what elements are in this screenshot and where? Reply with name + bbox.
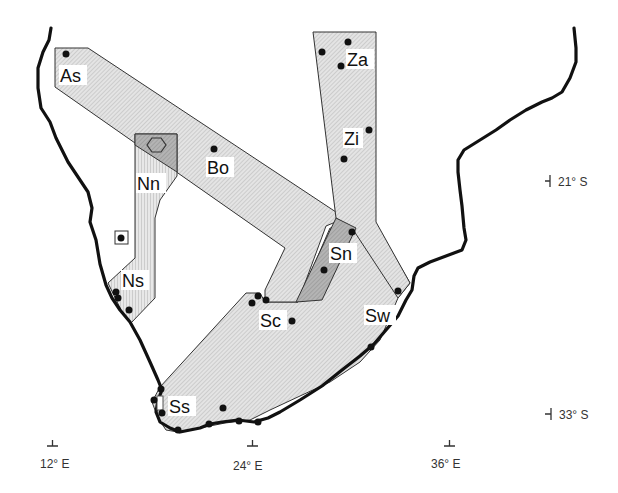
region-label-as: As xyxy=(60,66,81,86)
region-label-ns: Ns xyxy=(122,271,144,291)
site-marker xyxy=(175,427,182,434)
site-marker xyxy=(211,146,218,153)
longitude-tick xyxy=(47,440,58,446)
site-marker xyxy=(206,421,213,428)
latitude-label: 21° S xyxy=(558,175,587,189)
latitude-axis: 21° S 33° S xyxy=(545,175,588,422)
site-marker xyxy=(255,293,262,300)
longitude-label: 12° E xyxy=(40,457,69,471)
latitude-label: 33° S xyxy=(559,408,588,422)
site-marker xyxy=(349,229,356,236)
region-label-sw: Sw xyxy=(365,306,391,326)
region-label-sc: Sc xyxy=(260,311,281,331)
site-marker xyxy=(220,405,227,412)
site-marker xyxy=(236,418,243,425)
site-marker xyxy=(113,289,120,296)
site-marker xyxy=(115,295,122,302)
region-label-nn: Nn xyxy=(137,174,160,194)
map-canvas: As Bo Nn Ns Za Zi Sn Sc Sw Ss 12° E 24° … xyxy=(0,0,618,493)
site-marker xyxy=(366,127,373,134)
site-marker xyxy=(319,49,326,56)
site-marker xyxy=(321,267,328,274)
site-marker xyxy=(151,397,158,404)
region-label-ss: Ss xyxy=(169,397,190,417)
site-marker xyxy=(341,156,348,163)
longitude-tick xyxy=(444,440,455,446)
regions xyxy=(55,32,410,432)
longitude-label: 24° E xyxy=(233,459,262,473)
site-marker xyxy=(345,39,352,46)
longitude-tick xyxy=(247,440,258,446)
site-marker xyxy=(118,235,125,242)
longitude-axis: 12° E 24° E 36° E xyxy=(40,440,460,473)
region-label-sn: Sn xyxy=(330,244,352,264)
site-marker xyxy=(338,63,345,70)
small-box-marker xyxy=(157,396,163,410)
site-marker xyxy=(368,344,375,351)
latitude-tick xyxy=(545,175,550,187)
site-marker xyxy=(263,297,270,304)
site-marker xyxy=(159,410,166,417)
latitude-tick xyxy=(545,408,551,420)
region-label-za: Za xyxy=(347,50,369,70)
site-marker xyxy=(249,300,256,307)
site-marker xyxy=(63,51,70,58)
site-marker xyxy=(255,419,262,426)
region-label-zi: Zi xyxy=(344,129,359,149)
longitude-label: 36° E xyxy=(431,457,460,471)
region-label-bo: Bo xyxy=(207,158,229,178)
site-marker xyxy=(395,288,402,295)
site-marker xyxy=(158,386,165,393)
site-marker xyxy=(126,307,133,314)
site-marker xyxy=(289,318,296,325)
